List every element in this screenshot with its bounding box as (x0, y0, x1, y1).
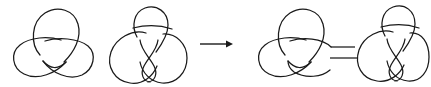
rightwards-arrow (200, 41, 233, 48)
figure-eight-right-knot (358, 6, 429, 81)
trefoil-left-overstrand (43, 61, 66, 68)
figure-eight-right-top-loop (382, 6, 415, 51)
arrow-head (226, 41, 233, 48)
diagram-canvas (0, 0, 431, 87)
knot-diagram-figure (0, 0, 431, 87)
trefoil-left-knot (14, 9, 94, 77)
connecting-band (330, 47, 357, 58)
trefoil-right-upper-loop (278, 9, 324, 62)
connected-sum-result (259, 6, 429, 81)
figure-eight-right-right-lobe (387, 33, 429, 81)
trefoil-right-overstrand (288, 61, 311, 68)
figure-eight-left-top-crossbar (133, 26, 172, 29)
figure-eight-left-knot (110, 7, 187, 83)
trefoil-right-knot (259, 9, 331, 76)
trefoil-left-lower-left-loop (14, 38, 66, 77)
trefoil-right-lower-right-loop (290, 39, 331, 47)
figure-eight-left-top-loop (134, 7, 168, 52)
trefoil-right-lower-left-loop (259, 38, 311, 77)
trefoil-left-upper-loop (33, 9, 79, 62)
figure-eight-right-top-crossbar (381, 25, 419, 28)
